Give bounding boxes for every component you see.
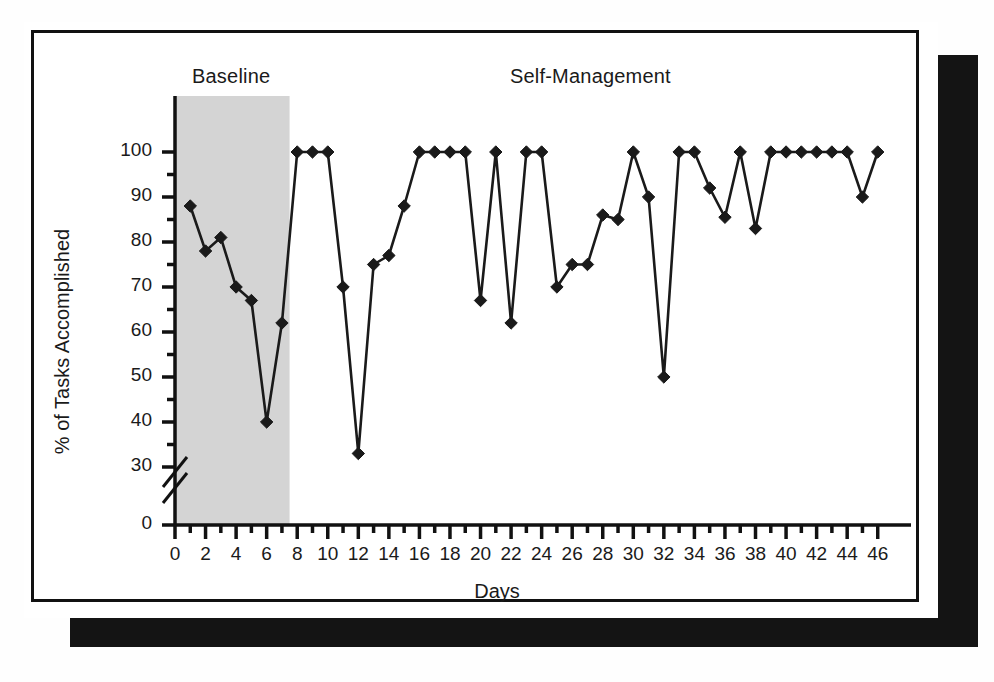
data-point-marker <box>780 146 792 158</box>
phase-label-self-management: Self-Management <box>510 65 671 88</box>
data-point-marker <box>337 281 349 293</box>
data-point-marker <box>291 146 303 158</box>
data-point-marker <box>429 146 441 158</box>
data-point-marker <box>612 213 624 225</box>
phase-shade-0 <box>175 96 290 525</box>
figure-root: Baseline Self-Management % of Tasks Acco… <box>0 0 994 682</box>
y-tick-label-40: 40 <box>52 409 152 431</box>
data-point-marker <box>627 146 639 158</box>
data-point-marker <box>703 182 715 194</box>
data-point-marker <box>306 146 318 158</box>
data-point-marker <box>658 371 670 383</box>
y-tick-label-30: 30 <box>52 454 152 476</box>
x-tick-label-46: 46 <box>853 543 903 565</box>
data-point-marker <box>474 294 486 306</box>
y-tick-label-60: 60 <box>52 319 152 341</box>
y-tick-label-80: 80 <box>52 229 152 251</box>
data-point-marker <box>367 258 379 270</box>
y-tick-label-0: 0 <box>52 512 152 534</box>
data-point-marker <box>795 146 807 158</box>
data-point-marker <box>413 146 425 158</box>
data-point-marker <box>673 146 685 158</box>
y-tick-label-70: 70 <box>52 274 152 296</box>
data-point-marker <box>444 146 456 158</box>
data-point-marker <box>490 146 502 158</box>
data-point-marker <box>734 146 746 158</box>
data-point-marker <box>398 200 410 212</box>
data-point-marker <box>810 146 822 158</box>
data-point-marker <box>688 146 700 158</box>
data-point-marker <box>642 191 654 203</box>
data-point-marker <box>872 146 884 158</box>
data-point-marker <box>535 146 547 158</box>
data-point-marker <box>383 249 395 261</box>
series-line-0 <box>190 152 877 454</box>
data-point-marker <box>520 146 532 158</box>
phase-label-baseline: Baseline <box>192 65 270 88</box>
data-point-marker <box>749 222 761 234</box>
data-point-marker <box>505 317 517 329</box>
data-point-marker <box>841 146 853 158</box>
line-chart-plot <box>31 30 919 602</box>
data-point-marker <box>459 146 471 158</box>
y-tick-label-50: 50 <box>52 364 152 386</box>
data-point-marker <box>581 258 593 270</box>
data-point-marker <box>856 191 868 203</box>
y-tick-label-100: 100 <box>52 139 152 161</box>
x-axis-title: Days <box>0 580 994 603</box>
data-point-marker <box>719 211 731 223</box>
data-point-marker <box>352 447 364 459</box>
data-point-marker <box>826 146 838 158</box>
data-point-marker <box>765 146 777 158</box>
data-point-marker <box>597 209 609 221</box>
y-tick-label-90: 90 <box>52 184 152 206</box>
data-point-marker <box>322 146 334 158</box>
